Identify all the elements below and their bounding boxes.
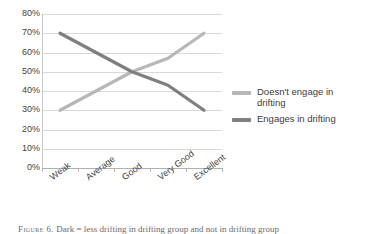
figure-caption-label: Figure 6. xyxy=(18,224,54,234)
x-axis-tick-label: Excellent xyxy=(192,152,227,182)
chart-legend: Doesn't engage in driftingEngages in dri… xyxy=(232,86,365,129)
x-axis-tick-label: Good xyxy=(120,161,144,182)
legend-swatch-icon xyxy=(232,118,251,122)
legend-item[interactable]: Engages in drifting xyxy=(232,113,365,124)
x-axis-tick-label: Weak xyxy=(48,160,72,182)
line-chart: 0%10%20%30%40%50%60%70%80% WeakAverageGo… xyxy=(0,0,365,234)
legend-swatch-icon xyxy=(232,91,251,95)
x-axis-tick-label: Very Good xyxy=(156,148,196,182)
legend-item[interactable]: Doesn't engage in drifting xyxy=(232,86,365,108)
figure-caption-text: Dark = less drifting in drifting group a… xyxy=(56,224,279,234)
x-axis-tick-label: Average xyxy=(84,154,117,182)
legend-label: Engages in drifting xyxy=(257,113,336,124)
legend-label: Doesn't engage in drifting xyxy=(257,86,359,108)
figure-caption: Figure 6. Dark = less drifting in drifti… xyxy=(18,224,365,234)
